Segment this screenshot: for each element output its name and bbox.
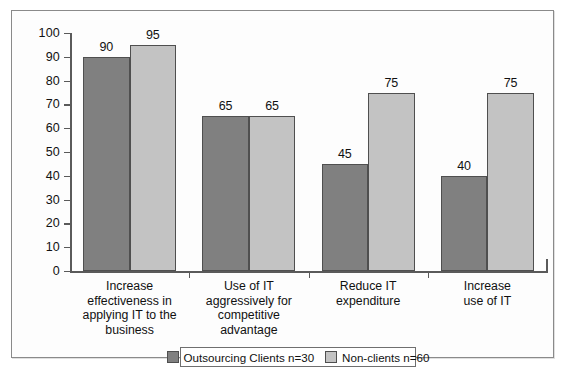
y-axis-tick-label: 0 [16, 264, 60, 278]
bar [202, 116, 249, 271]
bar [130, 45, 177, 271]
x-axis-tick-mark [189, 272, 190, 278]
figure-frame: 1009080706050403020100 9095656545754075 … [11, 10, 554, 358]
chart-legend: Outsourcing Clients n=30Non-clients n=60 [180, 347, 416, 367]
y-axis-tick-label: 70 [16, 97, 60, 111]
y-axis-tick-label: 20 [16, 216, 60, 230]
legend-color-swatch [325, 351, 337, 363]
y-axis-tick-mark [64, 223, 71, 224]
bar-value-label: 65 [219, 99, 233, 113]
x-axis-tick-mark [428, 272, 429, 278]
bar-value-label: 95 [146, 28, 160, 42]
bar-value-label: 75 [504, 76, 518, 90]
category-label-line: competitive [179, 308, 319, 323]
y-axis-tick-label: 60 [16, 121, 60, 135]
y-axis-tick-mark [64, 128, 71, 129]
y-axis-tick-mark [64, 57, 71, 58]
category-label-line: advantage [179, 323, 319, 338]
y-axis-tick-mark [64, 271, 71, 272]
y-axis-labels: 1009080706050403020100 [12, 11, 60, 357]
x-axis-tick-mark [309, 272, 310, 278]
bar-value-label: 75 [384, 76, 398, 90]
bar [249, 116, 296, 271]
bar-value-label: 90 [99, 40, 113, 54]
y-axis-tick-mark [64, 152, 71, 153]
y-axis-tick-mark [64, 176, 71, 177]
legend-entry: Outsourcing Clients n=30 [167, 351, 315, 364]
y-axis-tick-mark [64, 104, 71, 105]
y-axis-tick-label: 50 [16, 145, 60, 159]
bar-value-label: 45 [338, 147, 352, 161]
plot-area: 9095656545754075 [70, 33, 547, 271]
legend-color-swatch [167, 351, 179, 363]
y-axis-tick-label: 100 [16, 26, 60, 40]
y-axis-tick-mark [64, 33, 71, 34]
legend-entry: Non-clients n=60 [325, 351, 429, 364]
bar [487, 93, 534, 272]
category-label-line: use of IT [417, 294, 557, 309]
y-axis-tick-label: 40 [16, 169, 60, 183]
legend-label: Outsourcing Clients n=30 [184, 351, 315, 364]
y-axis-tick-mark [64, 81, 71, 82]
bar-value-label: 40 [457, 159, 471, 173]
y-axis-tick-label: 80 [16, 74, 60, 88]
y-axis-tick-label: 90 [16, 50, 60, 64]
bar [322, 164, 369, 271]
bar [368, 93, 415, 272]
bar [441, 176, 488, 271]
category-label-line: Increase [417, 279, 557, 294]
bar-value-label: 65 [265, 99, 279, 113]
y-axis-tick-mark [64, 247, 71, 248]
bar [83, 57, 130, 271]
y-axis-tick-label: 10 [16, 240, 60, 254]
y-axis-tick-mark [64, 200, 71, 201]
x-axis-category-label: Increaseuse of IT [417, 279, 557, 308]
legend-label: Non-clients n=60 [342, 351, 429, 364]
y-axis-tick-label: 30 [16, 193, 60, 207]
